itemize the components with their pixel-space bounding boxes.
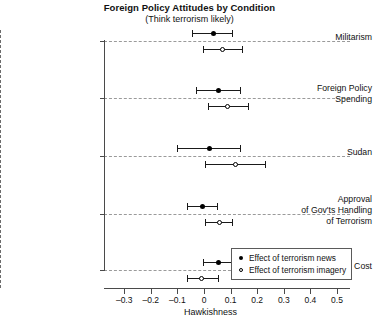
confidence-interval-cap [232,30,233,37]
confidence-interval-cap [196,87,197,94]
x-axis-tick-label: –0.1 [162,295,192,305]
point-marker-news [216,88,221,93]
confidence-interval-cap [192,30,193,37]
confidence-interval-cap [240,145,241,152]
chart-figure: Foreign Policy Attitudes by Condition (T… [0,0,379,328]
filled-circle-icon [236,256,246,260]
y-axis-tick [100,98,105,99]
zero-reference-line [0,30,1,288]
x-axis-tick [177,289,178,294]
confidence-interval-cap [205,161,206,168]
point-marker-imagery [220,47,225,52]
x-axis-tick-label: 0.4 [295,295,325,305]
x-axis-tick [231,289,232,294]
y-axis-tick [100,156,105,157]
confidence-interval-cap [187,275,188,282]
y-axis-label-line: Spending [275,94,372,105]
x-axis-tick-label: 0.5 [322,295,352,305]
x-axis-tick [284,289,285,294]
confidence-interval-cap [232,219,233,226]
open-circle-icon [236,268,246,272]
y-axis-category-label: Approvalof Gov'ts Handlingof Terrorism [275,194,379,227]
y-axis-label-line: of Gov'ts Handling [275,205,372,216]
confidence-interval-cap [205,219,206,226]
point-marker-news [200,204,205,209]
legend-item-label: Effect of terrorism news [249,253,336,263]
y-axis-label-line: Foreign Policy [275,83,372,94]
legend-item-label: Effect of terrorism imagery [249,265,346,275]
y-axis-label-line: Militarism [275,32,372,43]
x-axis-tick [124,289,125,294]
confidence-interval-cap [177,145,178,152]
confidence-interval-cap [203,46,204,53]
y-axis-tick [100,270,105,271]
x-axis-tick-label: –0.2 [136,295,166,305]
confidence-interval-cap [242,46,243,53]
x-axis-tick-label: 0.1 [216,295,246,305]
confidence-interval-cap [265,161,266,168]
y-axis-category-label: Sudan [275,147,379,158]
x-axis-tick [257,289,258,294]
y-axis-category-label: Foreign PolicySpending [275,83,379,105]
x-axis-title: Hawkishness [0,307,379,317]
y-axis-category-label: Militarism [275,32,379,43]
y-axis-tick [100,214,105,215]
confidence-interval-cap [203,259,204,266]
x-axis-tick-label: –0.3 [109,295,139,305]
x-axis-tick [310,289,311,294]
y-axis-label-line: of Terrorism [275,216,372,227]
confidence-interval-cap [217,203,218,210]
x-axis-tick-label: 0.2 [242,295,272,305]
y-axis-tick [100,41,105,42]
x-axis-line [104,288,350,289]
x-axis-tick-label: 0.3 [269,295,299,305]
legend-item: Effect of terrorism imagery [236,264,346,276]
point-marker-imagery [225,104,230,109]
point-marker-imagery [233,162,238,167]
chart-legend: Effect of terrorism news Effect of terro… [231,248,352,280]
confidence-interval-cap [240,87,241,94]
point-marker-news [207,146,212,151]
point-marker-imagery [217,220,222,225]
y-axis-label-line: Approval [275,194,372,205]
x-axis-tick-label: 0 [189,295,219,305]
x-axis-tick [337,289,338,294]
confidence-interval-cap [218,275,219,282]
confidence-interval-cap [187,203,188,210]
point-marker-news [216,260,221,265]
confidence-interval-cap [208,103,209,110]
point-marker-imagery [199,276,204,281]
y-axis-label-line: Sudan [275,147,372,158]
legend-item: Effect of terrorism news [236,252,346,264]
x-axis-tick [204,289,205,294]
x-axis-title-text: Hawkishness [184,307,237,317]
x-axis-tick [151,289,152,294]
confidence-interval-cap [248,103,249,110]
point-marker-news [211,31,216,36]
